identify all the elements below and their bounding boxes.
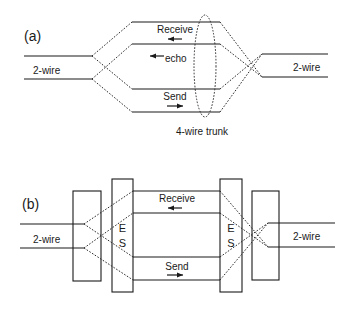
right-echo-suppressor-box	[220, 179, 242, 292]
left-hybrid-line	[92, 79, 132, 112]
echo-label: echo	[165, 53, 187, 64]
left-2wire-label: 2-wire	[33, 65, 61, 76]
send-label: Send	[163, 91, 186, 102]
left-hybrid-line	[84, 248, 133, 280]
right-hybrid-line	[220, 22, 262, 77]
trunk-label: 4-wire trunk	[176, 126, 229, 137]
receive-label: Receive	[157, 24, 194, 35]
echo-diagram: (a) 2-wire 2-wire Receive echo Send	[0, 0, 353, 314]
send-label: Send	[165, 261, 188, 272]
panel-b-label: (b)	[22, 196, 39, 212]
right-hybrid-box	[252, 191, 279, 280]
panel-a: (a) 2-wire 2-wire Receive echo Send	[24, 15, 328, 137]
right-es-e: E	[227, 222, 234, 234]
left-es-s: S	[119, 237, 126, 249]
left-echo-suppressor-box	[112, 179, 133, 292]
right-2wire-label: 2-wire	[293, 62, 321, 73]
panel-a-label: (a)	[24, 28, 41, 44]
left-hybrid-line	[92, 22, 132, 56]
right-2wire-label: 2-wire	[293, 231, 321, 242]
left-hybrid-box	[73, 191, 101, 281]
left-hybrid-line	[92, 44, 132, 79]
left-es-e: E	[119, 222, 126, 234]
panel-b: (b) 2-wire E S Receive Send E S	[20, 179, 335, 292]
left-hybrid-line	[84, 191, 133, 224]
trunk-ellipse	[194, 15, 216, 117]
left-2wire-label: 2-wire	[33, 234, 61, 245]
right-hybrid-line	[220, 54, 262, 112]
receive-label: Receive	[159, 193, 196, 204]
